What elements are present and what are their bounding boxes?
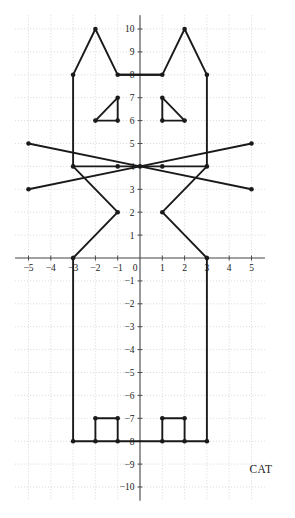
path-whisker-left-upper [29, 144, 141, 167]
svg-text:1: 1 [160, 263, 165, 273]
coordinate-plane-figure: −5−4−3−2−1123450−10−9−8−7−6−5−4−3−2−1123… [0, 0, 295, 518]
vertex-dot [182, 118, 187, 123]
figure-caption: CAT [250, 463, 273, 475]
svg-text:−9: −9 [124, 460, 134, 470]
vertex-dot [26, 141, 31, 146]
vertex-dot [115, 210, 120, 215]
svg-text:−1: −1 [124, 276, 134, 286]
vertex-dot [115, 416, 120, 421]
vertex-dot [160, 439, 165, 444]
path-foot-left [95, 418, 117, 441]
svg-text:−4: −4 [46, 263, 56, 273]
svg-text:5: 5 [249, 263, 254, 273]
svg-text:−10: −10 [120, 482, 135, 492]
vertex-dot [160, 118, 165, 123]
svg-text:3: 3 [130, 185, 135, 195]
svg-text:6: 6 [130, 116, 135, 126]
vertex-dot [115, 73, 120, 78]
vertex-dot [205, 439, 210, 444]
svg-text:−5: −5 [124, 368, 134, 378]
svg-text:−4: −4 [124, 345, 134, 355]
svg-text:−5: −5 [23, 263, 33, 273]
vertex-dot [138, 164, 143, 169]
vertex-dot [249, 141, 254, 146]
vertex-dot [93, 439, 98, 444]
svg-text:0: 0 [133, 263, 138, 273]
vertex-dot [205, 73, 210, 78]
axes [15, 15, 265, 500]
svg-text:−6: −6 [124, 391, 134, 401]
vertex-dot [160, 416, 165, 421]
vertex-dot [205, 256, 210, 261]
vertex-dot [71, 256, 76, 261]
vertex-dot [182, 439, 187, 444]
svg-text:−7: −7 [124, 414, 134, 424]
vertex-dot [160, 95, 165, 100]
svg-text:7: 7 [130, 93, 135, 103]
vertex-dot [26, 187, 31, 192]
svg-text:10: 10 [125, 24, 135, 34]
svg-text:5: 5 [130, 139, 135, 149]
svg-text:2: 2 [130, 208, 135, 218]
path-eye-right [162, 98, 184, 121]
svg-text:2: 2 [182, 263, 187, 273]
svg-text:1: 1 [130, 231, 135, 241]
vertex-dot [115, 118, 120, 123]
path-foot-right [162, 418, 184, 441]
vertex-dot [71, 73, 76, 78]
vertex-dot [93, 118, 98, 123]
vertex-dot [160, 73, 165, 78]
vertex-dot [115, 95, 120, 100]
vertex-dot [71, 164, 76, 169]
svg-text:9: 9 [130, 47, 135, 57]
vertex-dot [93, 416, 98, 421]
svg-text:−2: −2 [90, 263, 100, 273]
svg-text:4: 4 [227, 263, 232, 273]
cat-coordinate-graph: −5−4−3−2−1123450−10−9−8−7−6−5−4−3−2−1123… [0, 0, 295, 518]
svg-text:−1: −1 [113, 263, 123, 273]
vertex-dot [71, 439, 76, 444]
path-jaw-left [73, 166, 118, 258]
vertex-dot [160, 164, 165, 169]
vertex-dot [115, 439, 120, 444]
path-whisker-right-upper [140, 144, 252, 167]
vertex-dot [160, 210, 165, 215]
vertex-dot [182, 27, 187, 32]
vertex-dot [115, 164, 120, 169]
svg-text:−2: −2 [124, 299, 134, 309]
vertex-dot [249, 187, 254, 192]
svg-text:−3: −3 [124, 322, 134, 332]
path-eye-left [95, 98, 117, 121]
vertex-dot [205, 164, 210, 169]
vertex-dot [182, 416, 187, 421]
vertex-dot [93, 27, 98, 32]
